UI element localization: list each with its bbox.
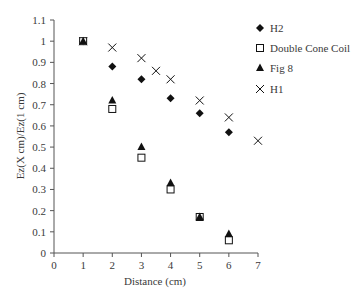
data-point-h1 (167, 75, 175, 83)
data-point-h2 (108, 63, 116, 71)
legend-marker-fig-8-icon (256, 64, 264, 72)
y-tick-label: 1.1 (32, 14, 46, 26)
y-ticks: 00.10.20.30.40.50.60.70.80.911.1 (32, 14, 54, 259)
data-point-h2 (225, 128, 233, 136)
x-tick-label: 2 (110, 259, 116, 271)
y-tick-label: 0.5 (32, 141, 46, 153)
legend-marker-h1-icon (256, 85, 264, 93)
legend-marker-double-cone-coil-icon (257, 45, 264, 52)
x-tick-label: 1 (80, 259, 86, 271)
legend-label: H2 (270, 22, 283, 34)
data-point-double-cone-coil (109, 105, 116, 112)
x-tick-label: 0 (51, 259, 57, 271)
x-ticks: 01234567 (51, 253, 261, 271)
data-point-h1 (225, 113, 233, 121)
data-point-h2 (196, 109, 204, 117)
y-tick-label: 0.8 (32, 78, 46, 90)
x-tick-label: 7 (255, 259, 261, 271)
x-axis-title: Distance (cm) (124, 275, 186, 288)
scatter-chart: 00.10.20.30.40.50.60.70.80.911.1 0123456… (0, 0, 362, 299)
data-point-double-cone-coil (225, 237, 232, 244)
x-tick-label: 6 (226, 259, 232, 271)
axes (54, 20, 258, 253)
data-point-h2 (137, 75, 145, 83)
data-point-h1 (108, 44, 116, 52)
x-tick-label: 5 (197, 259, 203, 271)
x-tick-label: 4 (168, 259, 174, 271)
data-point-double-cone-coil (138, 154, 145, 161)
data-point-h1 (137, 54, 145, 62)
y-tick-label: 0.2 (32, 205, 46, 217)
data-point-fig-8 (225, 229, 233, 237)
data-point-h1 (254, 137, 262, 145)
data-point-fig-8 (108, 96, 116, 104)
data-point-h1 (196, 96, 204, 104)
legend-marker-h2-icon (256, 24, 264, 32)
data-points (79, 37, 262, 244)
y-tick-label: 0.9 (32, 56, 46, 68)
data-point-h1 (152, 67, 160, 75)
y-tick-label: 0.3 (32, 183, 46, 195)
y-tick-label: 0.7 (32, 99, 46, 111)
legend-label: H1 (270, 83, 283, 95)
data-point-h2 (167, 94, 175, 102)
y-tick-label: 0.1 (32, 226, 46, 238)
data-point-fig-8 (137, 143, 145, 151)
legend-label: Fig 8 (270, 62, 293, 74)
legend-label: Double Cone Coil (270, 42, 350, 54)
y-tick-label: 1 (41, 35, 47, 47)
x-tick-label: 3 (139, 259, 145, 271)
data-point-double-cone-coil (167, 186, 174, 193)
y-axis-title: Ez(X cm)/Ez(1 cm) (14, 92, 27, 179)
data-point-fig-8 (167, 179, 175, 187)
y-tick-label: 0 (41, 247, 47, 259)
y-tick-label: 0.4 (32, 162, 46, 174)
legend: H2Double Cone CoilFig 8H1 (256, 22, 350, 95)
y-tick-label: 0.6 (32, 120, 46, 132)
